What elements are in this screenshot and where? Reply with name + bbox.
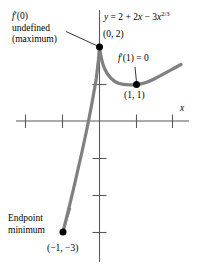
equation-eq-sign: = 2 + 2 bbox=[108, 12, 138, 22]
point-label-endpoint: (−1, −3) bbox=[47, 243, 78, 255]
equation-exponent: 2/3 bbox=[161, 10, 169, 17]
graph-figure: y = 2 + 2x − 3x2/3 f′(0) undefined (maxi… bbox=[0, 0, 197, 268]
annotation-critical-rest: ′(1) = 0 bbox=[121, 53, 149, 63]
point-marker-endpoint bbox=[60, 229, 67, 236]
equation-label: y = 2 + 2x − 3x2/3 bbox=[104, 12, 170, 22]
annotation-max-line2: undefined bbox=[12, 23, 57, 35]
curve-left-branch bbox=[63, 47, 100, 232]
annotation-endpoint: Endpoint minimum bbox=[8, 213, 45, 236]
leader-line-critical bbox=[135, 67, 137, 82]
point-marker-local-min bbox=[133, 81, 140, 88]
annotation-critical: f′(1) = 0 bbox=[118, 53, 149, 65]
annotation-max-line3: (maximum) bbox=[12, 34, 57, 46]
equation-middle: − 3 bbox=[142, 12, 157, 22]
annotation-max: f′(0) undefined (maximum) bbox=[12, 11, 57, 46]
annotation-endpoint-line1: Endpoint bbox=[8, 213, 45, 225]
point-marker-max bbox=[96, 44, 103, 51]
point-label-max: (0, 2) bbox=[103, 29, 124, 41]
annotation-max-prime: ′(0) bbox=[15, 11, 28, 21]
annotation-max-line1: f′(0) bbox=[12, 11, 57, 23]
point-label-local-min: (1, 1) bbox=[124, 90, 145, 102]
x-axis-label: x bbox=[180, 103, 184, 115]
leader-line-max bbox=[66, 32, 97, 46]
annotation-endpoint-line2: minimum bbox=[8, 225, 45, 237]
